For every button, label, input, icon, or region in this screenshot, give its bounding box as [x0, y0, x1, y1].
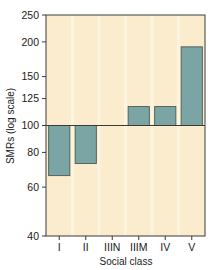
- x-axis-title: Social class: [100, 256, 153, 267]
- y-tick-label: 60: [27, 181, 39, 193]
- y-tick-label: 150: [21, 70, 39, 82]
- x-tick-label-V: V: [188, 241, 195, 253]
- x-tick-label-II: II: [83, 241, 89, 253]
- x-axis: IIIIIINIIIMIVV: [58, 236, 195, 253]
- bar-I: [49, 126, 70, 176]
- x-tick-label-IIIN: IIIN: [104, 241, 120, 253]
- y-tick-label: 250: [21, 9, 39, 21]
- bar-IV: [155, 107, 176, 126]
- x-tick-label-IIIM: IIIM: [130, 241, 148, 253]
- x-tick-label-I: I: [58, 241, 61, 253]
- bar-IIIM: [128, 107, 149, 126]
- chart-container: 406080100125150200250 IIIIIINIIIMIVV SMR…: [0, 0, 214, 270]
- y-tick-label: 40: [27, 230, 39, 242]
- x-tick-label-IV: IV: [160, 241, 170, 253]
- y-axis-title: SMRs (log scale): [5, 88, 16, 164]
- smr-bar-chart: 406080100125150200250 IIIIIINIIIMIVV SMR…: [0, 0, 214, 270]
- bar-II: [75, 126, 96, 164]
- y-tick-label: 100: [21, 119, 39, 131]
- y-tick-label: 80: [27, 146, 39, 158]
- y-axis: 406080100125150200250: [21, 9, 46, 242]
- y-tick-label: 200: [21, 36, 39, 48]
- bar-V: [181, 47, 202, 126]
- y-tick-label: 125: [21, 92, 39, 104]
